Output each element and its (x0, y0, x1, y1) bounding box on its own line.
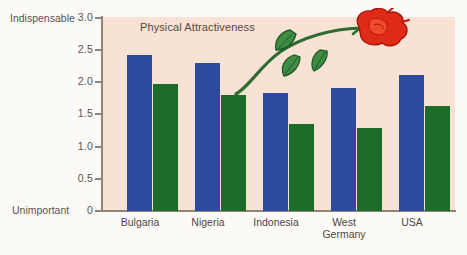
bar-west-germany-blue (331, 88, 356, 211)
bar-nigeria-green (221, 95, 246, 211)
axis-label-indispensable: Indispensable (10, 12, 75, 24)
y-tick-label-1.5: 1.5 (78, 107, 93, 119)
y-tick-1.5 (95, 113, 103, 115)
y-tick-label-3.0: 3.0 (78, 11, 93, 23)
bar-nigeria-blue (195, 63, 220, 211)
axis-label-unimportant: Unimportant (12, 204, 69, 216)
y-tick-label-0: 0 (87, 204, 93, 216)
bar-west-germany-green (357, 128, 382, 211)
bars-layer (103, 17, 455, 211)
bar-usa-green (425, 106, 450, 211)
y-tick-label-2.5: 2.5 (78, 43, 93, 55)
x-label-usa: USA (367, 216, 457, 228)
bar-bulgaria-blue (127, 55, 152, 211)
y-tick-label-1.0: 1.0 (78, 140, 93, 152)
y-tick-2.5 (95, 49, 103, 51)
bar-indonesia-blue (263, 93, 288, 211)
bar-bulgaria-green (153, 84, 178, 211)
y-tick-0.5 (95, 178, 103, 180)
y-tick-label-2.0: 2.0 (78, 75, 93, 87)
chart-page: 3.0 2.5 2.0 1.5 1.0 0.5 0 Indispensable … (0, 0, 467, 255)
bar-indonesia-green (289, 124, 314, 211)
y-tick-0 (95, 210, 103, 212)
y-tick-1.0 (95, 146, 103, 148)
y-tick-2.0 (95, 81, 103, 83)
bar-usa-blue (399, 75, 424, 211)
y-tick-label-0.5: 0.5 (78, 172, 93, 184)
y-tick-3.0 (95, 17, 103, 19)
